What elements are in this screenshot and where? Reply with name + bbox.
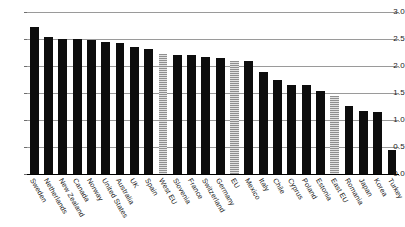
x-label-slot: West EU (156, 176, 170, 227)
x-axis-label-uk: UK (129, 177, 141, 190)
bar-new-zealand (58, 39, 67, 174)
bar-slot (256, 12, 270, 174)
y-axis-tick-label: 0.0 (384, 170, 405, 178)
bar-slot (213, 12, 227, 174)
bar-switzerland (201, 57, 210, 174)
bar-slot (242, 12, 256, 174)
x-label-slot: Poland (299, 176, 313, 227)
bar-chart: SwedenNetherlandsNew ZealandCanadaNorway… (0, 0, 405, 227)
bar-series (27, 12, 399, 174)
bar-slot (99, 12, 113, 174)
x-label-slot: Cyprus (285, 176, 299, 227)
bar-united-states (101, 42, 110, 174)
bar-italy (259, 72, 268, 174)
x-label-slot: Turkey (385, 176, 399, 227)
bar-west-eu (159, 54, 168, 174)
bar-netherlands (44, 37, 53, 174)
bar-mexico (244, 61, 253, 174)
x-label-slot: Switzerland (199, 176, 213, 227)
bar-slot (113, 12, 127, 174)
x-label-slot: Korea (371, 176, 385, 227)
bar-slot (299, 12, 313, 174)
bar-slot (199, 12, 213, 174)
bar-slot (227, 12, 241, 174)
bar-slot (41, 12, 55, 174)
axis-baseline (27, 174, 399, 175)
bar-france (187, 55, 196, 174)
y-axis-tick-mark (24, 93, 27, 94)
bar-slot (342, 12, 356, 174)
x-label-slot: EU (227, 176, 241, 227)
bar-slot (371, 12, 385, 174)
bar-slot (313, 12, 327, 174)
bar-slot (285, 12, 299, 174)
bar-slovenia (173, 55, 182, 174)
bar-uk (130, 47, 139, 174)
y-axis-tick-mark (24, 174, 27, 175)
bar-korea (373, 112, 382, 174)
bar-slot (184, 12, 198, 174)
bar-slot (156, 12, 170, 174)
bar-slot (56, 12, 70, 174)
x-label-slot: Australia (113, 176, 127, 227)
x-label-slot: Estonia (313, 176, 327, 227)
y-axis-tick-mark (24, 12, 27, 13)
bar-sweden (30, 27, 39, 174)
bar-slot (142, 12, 156, 174)
bar-slot (356, 12, 370, 174)
x-label-slot: France (184, 176, 198, 227)
bar-cyprus (287, 85, 296, 174)
x-label-slot: Italy (256, 176, 270, 227)
bar-romania (345, 106, 354, 174)
x-label-slot: Japan (356, 176, 370, 227)
x-axis-label-turkey: Turkey (386, 177, 404, 200)
x-label-slot: Spain (142, 176, 156, 227)
x-label-slot: UK (127, 176, 141, 227)
x-label-slot: East EU (328, 176, 342, 227)
bar-australia (116, 43, 125, 174)
bar-eu (230, 61, 239, 174)
bar-slot (84, 12, 98, 174)
bar-slot (70, 12, 84, 174)
y-axis-tick-mark (24, 66, 27, 67)
x-label-slot: Romania (342, 176, 356, 227)
x-label-slot: Chile (270, 176, 284, 227)
bar-japan (359, 111, 368, 174)
bar-slot (328, 12, 342, 174)
bar-slot (27, 12, 41, 174)
y-axis-tick-label: 2.5 (384, 35, 405, 43)
y-axis-tick-label: 3.0 (384, 8, 405, 16)
bar-norway (87, 40, 96, 174)
y-axis-tick-label: 2.0 (384, 62, 405, 70)
x-label-slot: Mexico (242, 176, 256, 227)
bar-estonia (316, 91, 325, 174)
bar-east-eu (330, 96, 339, 174)
y-axis-tick-label: 0.5 (384, 143, 405, 151)
y-axis-tick-mark (24, 147, 27, 148)
x-label-slot: Canada (70, 176, 84, 227)
x-label-slot: Germany (213, 176, 227, 227)
x-label-slot: Sweden (27, 176, 41, 227)
y-axis-tick-mark (24, 39, 27, 40)
x-label-slot: United States (99, 176, 113, 227)
bar-spain (144, 49, 153, 174)
bar-germany (216, 58, 225, 174)
x-label-slot: Slovenia (170, 176, 184, 227)
bar-canada (73, 39, 82, 174)
x-axis-category-labels: SwedenNetherlandsNew ZealandCanadaNorway… (27, 176, 399, 227)
bar-slot (127, 12, 141, 174)
x-label-slot: New Zealand (56, 176, 70, 227)
y-axis (0, 0, 24, 227)
y-axis-tick-mark (24, 120, 27, 121)
bar-slot (270, 12, 284, 174)
bar-chile (273, 80, 282, 175)
y-axis-tick-label: 1.5 (384, 89, 405, 97)
x-axis-label-eu: EU (229, 177, 241, 190)
x-label-slot: Netherlands (41, 176, 55, 227)
y-axis-tick-label: 1.0 (384, 116, 405, 124)
bar-poland (302, 85, 311, 174)
plot-area (27, 12, 399, 174)
x-label-slot: Norway (84, 176, 98, 227)
x-axis-label-italy: Italy (258, 177, 271, 193)
bar-slot (170, 12, 184, 174)
